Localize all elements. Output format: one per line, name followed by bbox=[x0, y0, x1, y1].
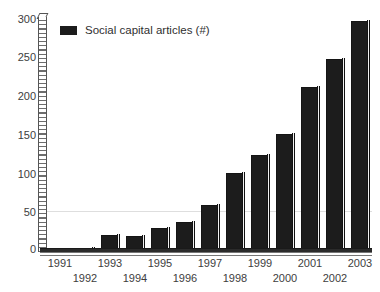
x-tick-label: 1996 bbox=[164, 273, 206, 284]
x-tick-label: 2001 bbox=[289, 258, 331, 269]
legend-label: Social capital articles (#) bbox=[85, 24, 210, 36]
x-axis-tick-labels: 1991199219931994199519961997199819992000… bbox=[0, 0, 380, 292]
x-tick-label: 2002 bbox=[314, 273, 356, 284]
bar-chart: 300 250 200 150 100 50 0 199119921993199… bbox=[0, 0, 380, 292]
x-tick-label: 1998 bbox=[214, 273, 256, 284]
x-tick-label: 1991 bbox=[39, 258, 81, 269]
x-tick-label: 1992 bbox=[64, 273, 106, 284]
x-tick-label: 1993 bbox=[89, 258, 131, 269]
x-tick-label: 2000 bbox=[264, 273, 306, 284]
x-tick-label: 1997 bbox=[189, 258, 231, 269]
x-tick-label: 1994 bbox=[114, 273, 156, 284]
x-tick-label: 1999 bbox=[239, 258, 281, 269]
x-tick-label: 1995 bbox=[139, 258, 181, 269]
legend-swatch-icon bbox=[60, 26, 77, 35]
legend: Social capital articles (#) bbox=[60, 24, 210, 36]
x-tick-label: 2003 bbox=[339, 258, 380, 269]
